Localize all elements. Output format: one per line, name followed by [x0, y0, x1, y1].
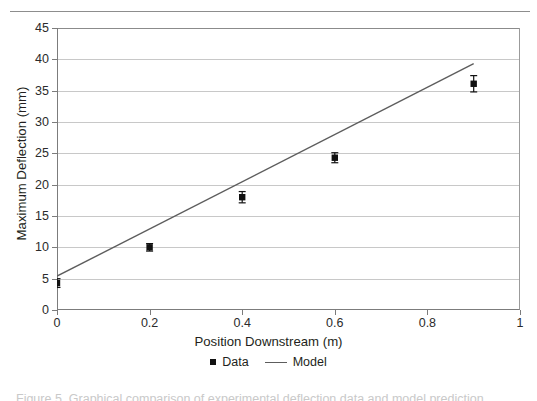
legend-entry-data: Data [210, 355, 248, 369]
chart-legend: DataModel [0, 355, 537, 369]
gridline-y-15 [58, 216, 519, 217]
plot-area [57, 28, 520, 310]
chart-canvas: 051015202530354045 00.20.40.60.81 Positi… [0, 18, 537, 348]
x-axis-title: Position Downstream (m) [0, 334, 537, 349]
y-tick-mark-15 [52, 216, 57, 217]
y-tick-mark-45 [52, 28, 57, 29]
gridline-y-10 [58, 247, 519, 248]
x-tick-mark-0.2 [150, 310, 151, 315]
x-tick-mark-1 [520, 310, 521, 315]
y-tick-label-45: 45 [3, 22, 49, 34]
gridline-y-30 [58, 122, 519, 123]
gridline-y-20 [58, 185, 519, 186]
legend-label: Data [222, 355, 248, 369]
legend-label: Model [293, 355, 327, 369]
x-tick-label-0.6: 0.6 [305, 317, 365, 330]
legend-entry-model: Model [265, 355, 327, 369]
y-tick-mark-10 [52, 247, 57, 248]
y-tick-mark-35 [52, 91, 57, 92]
x-tick-label-1: 1 [490, 317, 537, 330]
legend-square-marker-icon [210, 359, 216, 365]
y-tick-mark-30 [52, 122, 57, 123]
x-tick-label-0: 0 [27, 317, 87, 330]
y-tick-mark-25 [52, 153, 57, 154]
y-tick-mark-20 [52, 185, 57, 186]
y-tick-mark-40 [52, 59, 57, 60]
gridline-y-45 [58, 28, 519, 29]
x-tick-mark-0.6 [335, 310, 336, 315]
figure-container: 051015202530354045 00.20.40.60.81 Positi… [0, 0, 537, 401]
gridline-y-35 [58, 91, 519, 92]
x-tick-label-0.8: 0.8 [397, 317, 457, 330]
x-tick-mark-0 [57, 310, 58, 315]
x-tick-label-0.2: 0.2 [120, 317, 180, 330]
x-tick-mark-0.8 [427, 310, 428, 315]
gridline-y-25 [58, 153, 519, 154]
x-tick-mark-0.4 [242, 310, 243, 315]
x-tick-label-0.4: 0.4 [212, 317, 272, 330]
y-tick-mark-5 [52, 279, 57, 280]
gridline-y-40 [58, 59, 519, 60]
y-axis-title: Maximum Deflection (mm) [14, 64, 29, 264]
y-tick-label-0: 0 [3, 304, 49, 316]
top-horizontal-rule [10, 11, 530, 12]
y-tick-label-5: 5 [3, 273, 49, 285]
legend-line-marker-icon [265, 362, 287, 363]
figure-caption-clipped: Figure 5. Graphical comparison of experi… [16, 393, 521, 401]
gridline-y-5 [58, 279, 519, 280]
